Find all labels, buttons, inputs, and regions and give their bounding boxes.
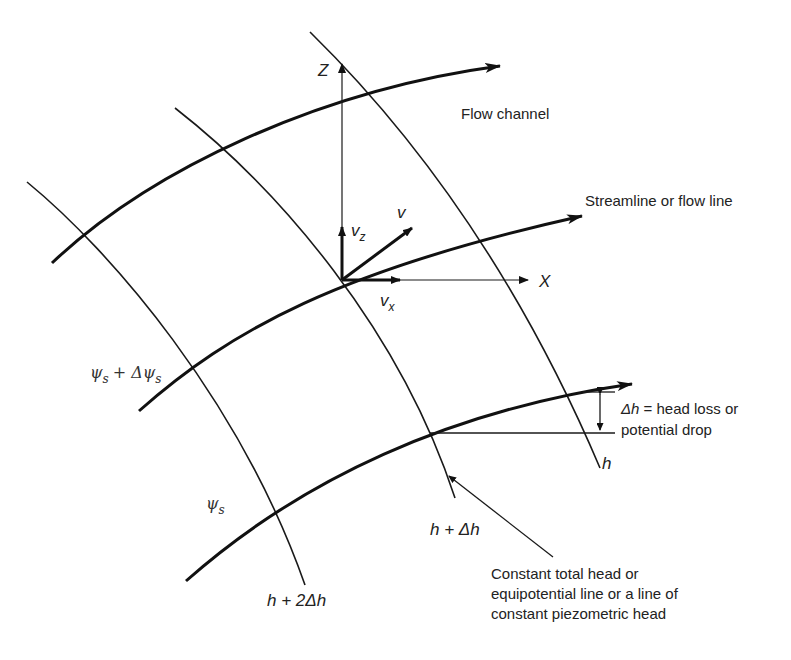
h-plus-2dh-label: h + 2Δh [267, 591, 326, 610]
v-label: v [397, 203, 407, 222]
x-axis-label: X [538, 272, 551, 291]
h-label: h [602, 454, 611, 473]
psi-label: ψs [206, 494, 225, 517]
streamline-top [52, 66, 500, 263]
streamline-bottom [186, 384, 632, 581]
psi-plus-dpsi-label: ψs+ Δψs [90, 363, 161, 386]
streamline-label: Streamline or flow line [585, 192, 733, 209]
delta-h-label-line2: potential drop [621, 421, 712, 438]
h-plus-dh-label: h + Δh [430, 520, 480, 539]
equipotential-line-h-plus-2dh [27, 182, 305, 585]
vx-label: vx [380, 291, 396, 314]
equipotential-leader-arrow [449, 476, 553, 557]
vz-label: vz [351, 221, 366, 244]
equipotential-desc-line2: equipotential line or a line of [491, 585, 679, 602]
flow-net-diagram: Z X vz v vx Flow channel Streamline or f… [0, 0, 791, 660]
streamline-middle [139, 216, 582, 411]
equipotential-line-h-plus-dh [175, 108, 455, 498]
equipotential-desc-line3: constant piezometric head [491, 605, 666, 622]
delta-h-label-line1: Δh = head loss or [620, 400, 738, 417]
flow-channel-label: Flow channel [461, 105, 549, 122]
z-axis-label: Z [317, 61, 329, 80]
equipotential-desc-line1: Constant total head or [491, 565, 639, 582]
